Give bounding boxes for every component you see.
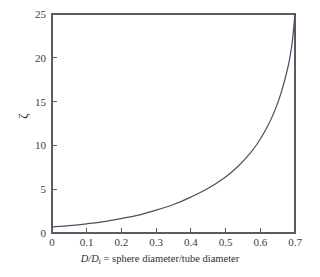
y-tick-label: 5 [41, 183, 47, 195]
x-tick-label: 0.1 [80, 236, 94, 248]
x-tick-label: 0.4 [184, 236, 198, 248]
x-tick-label: 0.2 [115, 236, 129, 248]
y-tick-label: 10 [35, 139, 47, 151]
chart-canvas: 00.10.20.30.40.50.60.7 0510152025 [0, 0, 320, 277]
x-tick-label: 0.6 [253, 236, 267, 248]
plot-frame [52, 14, 295, 233]
x-tick-label: 0 [49, 236, 55, 248]
x-tick-label: 0.7 [288, 236, 302, 248]
data-series-curve [52, 14, 295, 227]
x-axis-ticks [52, 228, 295, 233]
x-tick-label: 0.3 [149, 236, 163, 248]
y-axis-tick-labels: 0510152025 [35, 8, 47, 239]
x-axis-label-denominator: D [91, 253, 99, 264]
x-axis-label-rest: = sphere diameter/tube diameter [101, 253, 239, 264]
x-tick-label: 0.5 [219, 236, 233, 248]
y-tick-label: 15 [35, 96, 47, 108]
y-tick-label: 25 [35, 8, 47, 20]
figure-container: 00.10.20.30.40.50.60.7 0510152025 D/Dt =… [0, 0, 320, 277]
y-tick-label: 20 [35, 52, 47, 64]
y-tick-label: 0 [41, 227, 47, 239]
x-axis-tick-labels: 00.10.20.30.40.50.60.7 [49, 236, 302, 248]
y-axis-label: ζ [15, 105, 31, 127]
y-axis-ticks [52, 14, 57, 233]
x-axis-label: D/Dt = sphere diameter/tube diameter [0, 252, 320, 269]
